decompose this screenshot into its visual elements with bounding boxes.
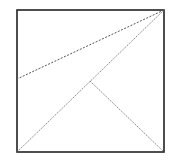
geometry-diagram (0, 0, 174, 164)
line-interior-to-bottom-right (90, 81, 164, 152)
line-top-right-to-left-edge (17, 10, 164, 79)
